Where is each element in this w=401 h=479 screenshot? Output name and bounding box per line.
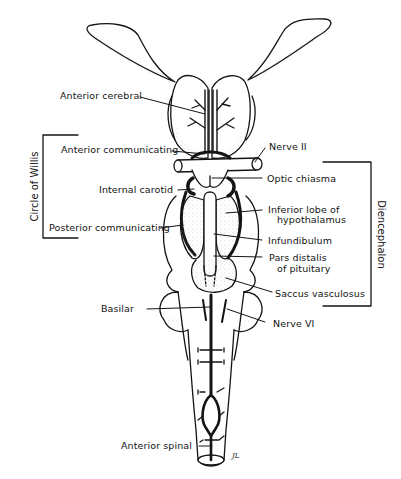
medulla-right-lobe	[234, 292, 262, 332]
inferior-lobe-left	[181, 196, 205, 259]
anatomy-drawing: JL	[0, 0, 401, 479]
label-internal-carotid: Internal carotid	[99, 184, 173, 195]
nerve-vi-right	[222, 300, 226, 322]
olfactory-lobe-left	[87, 24, 175, 82]
label-basilar: Basilar	[101, 303, 134, 314]
nerve-ii	[178, 158, 258, 172]
bracket-label-circle-of-willis: Circle of Willis	[29, 147, 40, 227]
label-optic-chiasma: Optic chiasma	[267, 173, 336, 184]
label-pars-distalis-line2: of pituitary	[277, 263, 331, 274]
label-anterior-cerebral: Anterior cerebral	[60, 90, 142, 101]
bracket-label-diencephalon: Diencephalon	[376, 195, 387, 275]
saccus-vasculosus	[192, 258, 237, 292]
label-nerve-ii: Nerve II	[269, 141, 307, 152]
basilar-loop	[203, 395, 220, 436]
label-anterior-communicating: Anterior communicating	[61, 144, 178, 155]
internal-carotid-right	[228, 178, 234, 196]
label-inferior-lobe-line2: hypothalamus	[277, 214, 346, 225]
label-nerve-vi: Nerve VI	[273, 318, 314, 329]
medulla-left-lobe	[160, 292, 188, 332]
brain-artery-diagram: JL Anterior cerebral An	[0, 0, 401, 479]
inferior-lobe-right	[216, 196, 240, 259]
internal-carotid-left	[188, 178, 194, 194]
svg-text:JL: JL	[230, 452, 240, 460]
label-posterior-communicating: Posterior communicating	[49, 222, 170, 233]
nerve-vi-left	[203, 300, 206, 320]
label-saccus-vasculosus: Saccus vasculosus	[275, 288, 365, 299]
label-pars-distalis-line1: Pars distalis	[269, 252, 327, 263]
label-anterior-spinal: Anterior spinal	[121, 440, 192, 451]
label-infundibulum: Infundibulum	[268, 235, 332, 246]
hemisphere-right	[212, 76, 250, 159]
